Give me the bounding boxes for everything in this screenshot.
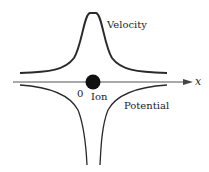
x-axis-label: x [195, 75, 202, 88]
ion-circle [86, 75, 101, 90]
velocity-label: Velocity [106, 19, 147, 30]
potential-curve-right [100, 85, 167, 165]
x-axis-arrow-icon [183, 79, 193, 85]
ion-label: Ion [91, 91, 108, 102]
origin-label: 0 [77, 88, 83, 99]
ion-velocity-potential-diagram: x Velocity Potential 0 Ion [0, 0, 209, 172]
potential-label: Potential [124, 100, 169, 111]
